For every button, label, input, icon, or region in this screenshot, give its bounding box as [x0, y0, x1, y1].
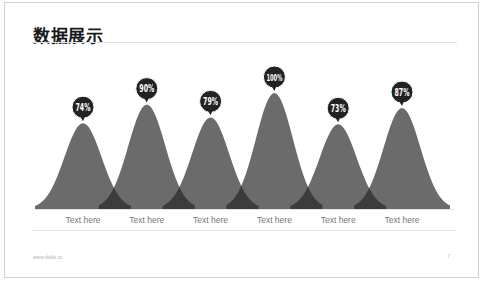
category-label: Text here: [367, 215, 437, 225]
labels-divider: [32, 230, 457, 231]
value-bubble-4: 100%: [263, 66, 285, 91]
value-label: 79%: [203, 96, 218, 107]
category-label: Text here: [239, 215, 309, 225]
value-bubble-3: 79%: [200, 90, 222, 115]
category-label: Text here: [112, 215, 182, 225]
curves-layer: [35, 93, 455, 210]
value-label: 87%: [395, 87, 410, 98]
value-label: 73%: [331, 103, 346, 114]
category-label: Text here: [176, 215, 246, 225]
value-bubble-2: 90%: [136, 78, 158, 103]
value-bubble-1: 74%: [72, 96, 94, 121]
value-label: 100%: [266, 73, 282, 83]
footer-url: www.ddde.cc: [33, 254, 62, 260]
value-bubble-6: 87%: [391, 81, 413, 106]
page-number: 7: [447, 253, 450, 259]
category-label: Text here: [48, 215, 118, 225]
category-label: Text here: [303, 215, 373, 225]
bubbles-layer: 74%90%79%100%73%87%: [72, 66, 413, 122]
value-label: 74%: [76, 102, 91, 113]
value-label: 90%: [139, 83, 154, 94]
value-bubble-5: 73%: [327, 97, 349, 122]
bell-curve-chart: 74%90%79%100%73%87%: [0, 0, 482, 283]
